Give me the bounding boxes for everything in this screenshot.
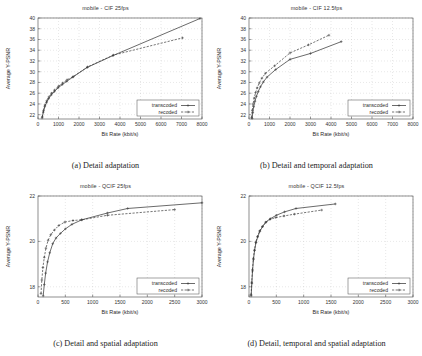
svg-text:transcoded: transcoded (152, 102, 177, 108)
svg-text:20: 20 (240, 238, 246, 244)
svg-text:1500: 1500 (325, 299, 336, 305)
svg-text:22: 22 (240, 193, 246, 199)
panel-caption: (d) Detail, temporal and spatial adaptat… (211, 339, 422, 348)
svg-text:22: 22 (29, 112, 35, 118)
svg-text:Average Y-PSNR: Average Y-PSNR (216, 48, 222, 89)
svg-text:3000: 3000 (407, 299, 418, 305)
svg-text:500: 500 (272, 299, 281, 305)
plot-a: 0100020003000400050006000700080002224262… (0, 0, 211, 150)
svg-text:6000: 6000 (366, 121, 377, 127)
svg-text:Average Y-PSNR: Average Y-PSNR (5, 226, 11, 267)
svg-text:1000: 1000 (264, 121, 275, 127)
svg-text:32: 32 (29, 58, 35, 64)
svg-text:4000: 4000 (114, 121, 125, 127)
svg-text:26: 26 (29, 90, 35, 96)
svg-text:Bit Rate (kbit/s): Bit Rate (kbit/s) (102, 309, 139, 315)
svg-text:2000: 2000 (284, 121, 295, 127)
svg-text:32: 32 (240, 58, 246, 64)
svg-text:7000: 7000 (387, 121, 398, 127)
svg-text:Bit Rate (kbit/s): Bit Rate (kbit/s) (313, 309, 350, 315)
svg-text:22: 22 (240, 112, 246, 118)
svg-text:recoded: recoded (159, 287, 178, 293)
svg-text:2500: 2500 (380, 299, 391, 305)
svg-text:3000: 3000 (305, 121, 316, 127)
svg-text:transcoded: transcoded (152, 280, 177, 286)
svg-text:1000: 1000 (87, 299, 98, 305)
svg-text:40: 40 (29, 15, 35, 21)
svg-text:0: 0 (248, 121, 251, 127)
svg-text:30: 30 (29, 69, 35, 75)
svg-text:transcoded: transcoded (363, 102, 388, 108)
svg-text:1000: 1000 (298, 299, 309, 305)
svg-text:Bit Rate (kbit/s): Bit Rate (kbit/s) (102, 131, 139, 137)
svg-text:2000: 2000 (353, 299, 364, 305)
svg-text:40: 40 (240, 15, 246, 21)
svg-text:5000: 5000 (135, 121, 146, 127)
panel-a: mobile - CIF 25fps 010002000300040005000… (0, 0, 211, 178)
plot-b: 0100020003000400050006000700080002224262… (211, 0, 422, 150)
svg-text:recoded: recoded (370, 287, 389, 293)
panel-d: mobile - QCIF 12.5fps 050010001500200025… (211, 178, 422, 356)
svg-text:28: 28 (240, 79, 246, 85)
svg-text:26: 26 (240, 90, 246, 96)
svg-text:38: 38 (240, 26, 246, 32)
svg-text:0: 0 (37, 299, 40, 305)
svg-text:3000: 3000 (196, 299, 207, 305)
svg-text:1500: 1500 (114, 299, 125, 305)
svg-text:Bit Rate (kbit/s): Bit Rate (kbit/s) (313, 131, 350, 137)
panel-caption: (c) Detail and spatial adaptation (0, 339, 211, 348)
svg-text:38: 38 (29, 26, 35, 32)
svg-text:2500: 2500 (169, 299, 180, 305)
svg-text:30: 30 (240, 69, 246, 75)
svg-text:3000: 3000 (94, 121, 105, 127)
svg-text:34: 34 (240, 47, 246, 53)
panel-caption: (a) Detail adaptation (0, 161, 211, 170)
svg-text:4000: 4000 (325, 121, 336, 127)
panel-b: mobile - CIF 12.5fps 0100020003000400050… (211, 0, 422, 178)
svg-text:500: 500 (61, 299, 70, 305)
svg-text:0: 0 (37, 121, 40, 127)
svg-text:recoded: recoded (370, 109, 389, 115)
svg-text:34: 34 (29, 47, 35, 53)
svg-text:28: 28 (29, 79, 35, 85)
svg-text:0: 0 (248, 299, 251, 305)
plot-c: 050010001500200025003000182022transcoded… (0, 178, 211, 328)
svg-text:2000: 2000 (142, 299, 153, 305)
svg-text:recoded: recoded (159, 109, 178, 115)
svg-text:24: 24 (240, 101, 246, 107)
svg-text:Average Y-PSNR: Average Y-PSNR (216, 226, 222, 267)
panel-c: mobile - QCIF 25fps 05001000150020002500… (0, 178, 211, 356)
svg-text:5000: 5000 (346, 121, 357, 127)
svg-text:8000: 8000 (196, 121, 207, 127)
svg-text:7000: 7000 (176, 121, 187, 127)
svg-text:transcoded: transcoded (363, 280, 388, 286)
panel-caption: (b) Detail and temporal adaptation (211, 161, 422, 170)
svg-text:18: 18 (29, 284, 35, 290)
svg-text:36: 36 (29, 36, 35, 42)
svg-text:36: 36 (240, 36, 246, 42)
svg-text:18: 18 (240, 284, 246, 290)
svg-text:20: 20 (29, 238, 35, 244)
svg-text:Average Y-PSNR: Average Y-PSNR (5, 48, 11, 89)
svg-text:22: 22 (29, 193, 35, 199)
svg-text:6000: 6000 (155, 121, 166, 127)
svg-text:8000: 8000 (407, 121, 418, 127)
plot-d: 050010001500200025003000182022transcoded… (211, 178, 422, 328)
svg-text:2000: 2000 (73, 121, 84, 127)
svg-text:24: 24 (29, 101, 35, 107)
svg-text:1000: 1000 (53, 121, 64, 127)
figure-grid: mobile - CIF 25fps 010002000300040005000… (0, 0, 422, 356)
